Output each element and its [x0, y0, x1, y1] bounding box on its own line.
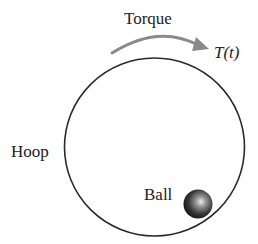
torque-arrow-icon: [112, 36, 209, 53]
torque-label: Torque: [124, 10, 172, 27]
ball-icon: [184, 190, 213, 219]
hoop-circle: [65, 58, 245, 236]
diagram-canvas: [0, 0, 258, 244]
hoop-label: Hoop: [11, 143, 49, 160]
hoop-ball-diagram: Torque T(t) Hoop Ball: [0, 0, 258, 244]
ball-label: Ball: [144, 186, 172, 203]
torque-symbol-label: T(t): [214, 44, 240, 61]
